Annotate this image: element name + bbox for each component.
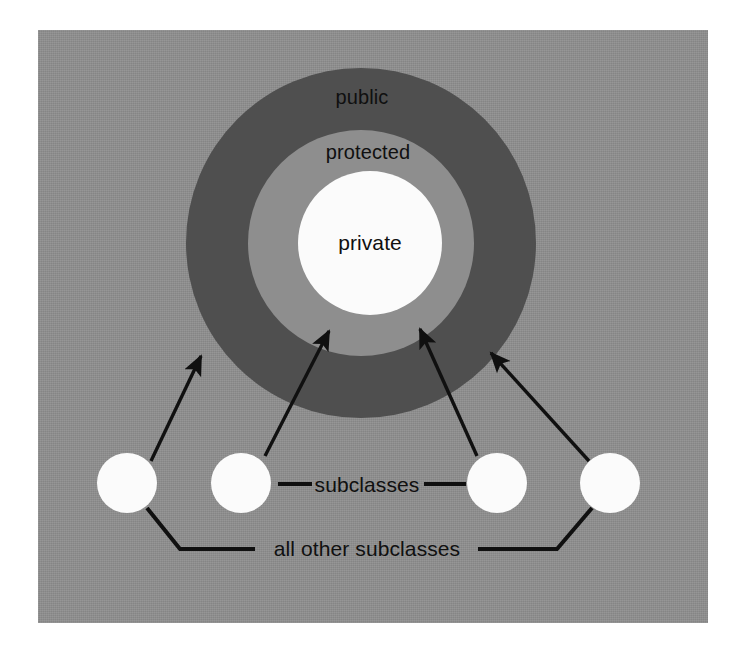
all-other-subclasses-callout-label: all other subclasses <box>274 537 460 561</box>
public-label: public <box>336 86 389 109</box>
subclass-node-2 <box>211 453 271 513</box>
arrow-subclass-1-to-ring <box>151 356 201 461</box>
subclasses-callout-label: subclasses <box>315 473 420 497</box>
subclass-node-1 <box>97 453 157 513</box>
all-other-subclasses-leader-right <box>478 508 592 549</box>
subclass-node-4 <box>580 453 640 513</box>
figure-root: public protected private subclasses all … <box>0 0 736 649</box>
protected-label: protected <box>326 141 410 164</box>
arrow-subclass-4-to-ring <box>491 353 589 461</box>
all-other-subclasses-leader-left <box>147 508 255 549</box>
private-label: private <box>338 231 402 255</box>
subclass-node-3 <box>467 453 527 513</box>
